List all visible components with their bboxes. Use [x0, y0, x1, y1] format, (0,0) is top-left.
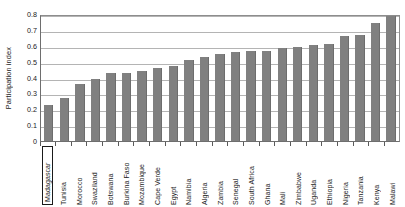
x-axis-tick [337, 142, 353, 146]
bar-slot [321, 16, 337, 141]
bar [106, 73, 115, 141]
x-axis-tick [369, 142, 385, 146]
x-axis-tick [275, 142, 291, 146]
x-axis-label: Ghana [264, 147, 271, 205]
bar [246, 51, 255, 141]
x-axis-tick [87, 142, 103, 146]
x-axis-tick [228, 142, 244, 146]
y-axis-title: Participation index [0, 18, 16, 138]
y-axis-tick-label: 0.5 [27, 59, 37, 66]
x-axis-label: Zambia [217, 147, 224, 205]
x-axis-label-slot: Mali [275, 147, 291, 205]
x-axis-label-highlighted: Madagascar [42, 146, 53, 205]
bar-slot [274, 16, 290, 141]
x-axis-label-slot: Senegal [228, 147, 244, 205]
x-axis-label-slot: Burkina Faso [118, 147, 134, 205]
plot-area [40, 15, 400, 142]
x-axis-tick [71, 142, 87, 146]
bar-slot [57, 16, 73, 141]
x-axis-label-slot: Madagascar [40, 147, 56, 205]
x-axis-label: Burkina Faso [123, 147, 130, 205]
x-axis-tick [259, 142, 275, 146]
bar [262, 51, 271, 141]
bar [293, 47, 302, 141]
x-axis-label-slot: South Africa [244, 147, 260, 205]
x-axis-tick [322, 142, 338, 146]
x-axis-label: Uganda [310, 147, 317, 205]
x-axis-label: Malawi [389, 147, 396, 205]
bar [215, 54, 224, 141]
bar-slot [368, 16, 384, 141]
y-axis-tick-label: 0.8 [27, 11, 37, 18]
x-axis-label-slot: Malawi [384, 147, 400, 205]
bar [386, 15, 395, 141]
x-axis-tick [306, 142, 322, 146]
bar-slot [228, 16, 244, 141]
bar [169, 66, 178, 141]
x-axis-label-slot: Namibia [181, 147, 197, 205]
x-axis-label: Egypt [170, 147, 177, 205]
x-axis-label: Tanzania [357, 147, 364, 205]
bar [340, 36, 349, 141]
bar-slot [41, 16, 57, 141]
bar [75, 84, 84, 141]
x-axis-tick [150, 142, 166, 146]
x-axis-label: Senegal [232, 147, 239, 205]
bar-slot [259, 16, 275, 141]
x-axis-category-labels: MadagascarTunisiaMoroccoSwazilandBotswan… [40, 147, 400, 205]
bar-slot [181, 16, 197, 141]
y-axis-tick-label: 0 [33, 138, 37, 145]
bar-slot [134, 16, 150, 141]
y-axis-tick-label: 0.3 [27, 91, 37, 98]
x-axis-label-slot: Ethiopia [322, 147, 338, 205]
x-axis-label: Botswana [107, 147, 114, 205]
y-axis-tick-label: 0.6 [27, 43, 37, 50]
x-axis-label-slot: Algeria [197, 147, 213, 205]
x-axis-label: Ethiopia [326, 147, 333, 205]
x-axis-label: Zimbabwe [295, 147, 302, 205]
bar-slot [243, 16, 259, 141]
x-axis-label-slot: Nigeria [337, 147, 353, 205]
x-axis-label-slot: Cape Verde [150, 147, 166, 205]
bar [122, 73, 131, 141]
x-axis-label: Swaziland [91, 147, 98, 205]
bar [153, 68, 162, 141]
y-axis-tick-label: 0.4 [27, 75, 37, 82]
bar-slot [337, 16, 353, 141]
x-axis-label-slot: Botswana [103, 147, 119, 205]
x-axis-label: Morocco [76, 147, 83, 205]
x-axis-label: Mali [279, 147, 286, 205]
x-axis-tick [244, 142, 260, 146]
y-axis-tick-labels: 0.80.70.60.50.40.30.20.10 [17, 14, 39, 142]
x-axis-tick [134, 142, 150, 146]
bar [60, 98, 69, 141]
bar [200, 57, 209, 141]
bar-slot [383, 16, 399, 141]
x-axis-label: Tunisia [60, 147, 67, 205]
x-axis-tick [56, 142, 72, 146]
bar [91, 79, 100, 141]
x-axis-label: Algeria [201, 147, 208, 205]
bar [324, 44, 333, 141]
bar-slot [197, 16, 213, 141]
x-axis-label-slot: Mozambique [134, 147, 150, 205]
bar [44, 105, 53, 142]
bar-slot [119, 16, 135, 141]
y-axis-tick-label: 0.7 [27, 27, 37, 34]
x-axis-tick [181, 142, 197, 146]
bar-slot [352, 16, 368, 141]
x-axis-label: South Africa [248, 147, 255, 205]
bar-slot [150, 16, 166, 141]
bar-slot [88, 16, 104, 141]
x-axis-label-slot: Uganda [306, 147, 322, 205]
x-axis-tick [197, 142, 213, 146]
x-axis-label: Mozambique [138, 147, 145, 205]
x-axis-tick [353, 142, 369, 146]
x-axis-label: Kenya [373, 147, 380, 205]
bar-slot [72, 16, 88, 141]
bar [231, 52, 240, 141]
y-axis-tick-label: 0.2 [27, 107, 37, 114]
x-axis-label-slot: Tunisia [56, 147, 72, 205]
x-axis-ticks [40, 142, 400, 146]
bar-slot [166, 16, 182, 141]
